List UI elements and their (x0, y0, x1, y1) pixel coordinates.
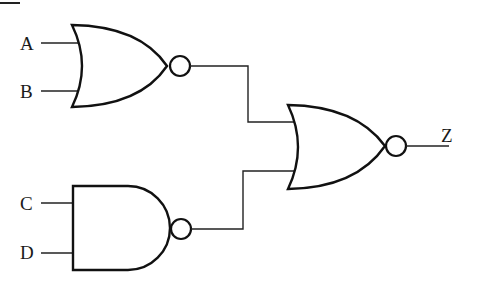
nor-gate-1 (72, 25, 190, 107)
inverter-bubble (386, 136, 406, 156)
output-label-z: Z (441, 125, 453, 146)
input-label-b: B (20, 81, 33, 102)
nor-gate-2 (288, 105, 406, 189)
logic-circuit-diagram: A B C D Z (0, 0, 482, 287)
wire-nor1-to-nor2 (190, 66, 295, 122)
inverter-bubble (170, 56, 190, 76)
inverter-bubble (171, 219, 191, 239)
nand-gate (73, 186, 191, 270)
input-label-c: C (20, 193, 33, 214)
wire-nand-to-nor2 (191, 171, 295, 229)
input-label-a: A (20, 33, 34, 54)
input-label-d: D (20, 242, 34, 263)
